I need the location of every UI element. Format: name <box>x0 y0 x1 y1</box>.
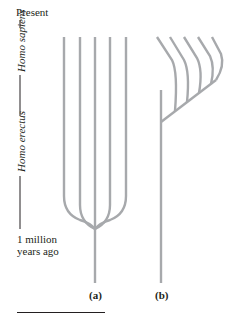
panel-label-a: (a) <box>89 289 102 302</box>
tree-a <box>64 37 126 283</box>
panel-label-b: (b) <box>155 289 168 302</box>
tree-a-branch-2 <box>80 37 95 229</box>
tree-b-branch-2 <box>170 37 188 102</box>
footnote-rule <box>17 312 105 313</box>
tree-b <box>157 37 222 283</box>
phylogeny-diagram <box>0 0 232 316</box>
tree-a-branch-4 <box>95 37 110 229</box>
